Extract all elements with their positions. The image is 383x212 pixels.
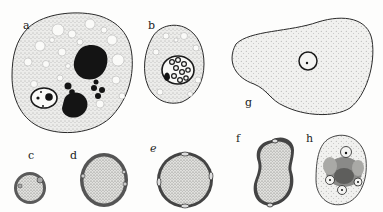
cell-a [12,13,132,133]
label-b: b [148,20,155,31]
cell-f [254,138,294,207]
label-f: f [236,133,240,144]
label-g: g [245,97,252,108]
cell-c [14,172,46,204]
label-e: e [150,143,157,154]
figure-plate: a b g c d e f h [0,0,383,212]
label-h: h [306,133,313,144]
cell-d [80,153,128,207]
cell-e [157,152,213,208]
label-d: d [70,150,77,161]
label-a: a [23,20,30,31]
cell-b [145,25,204,103]
cell-h [316,135,366,205]
cell-g [232,18,373,114]
cell-illustrations [0,0,383,212]
label-c: c [28,150,34,161]
